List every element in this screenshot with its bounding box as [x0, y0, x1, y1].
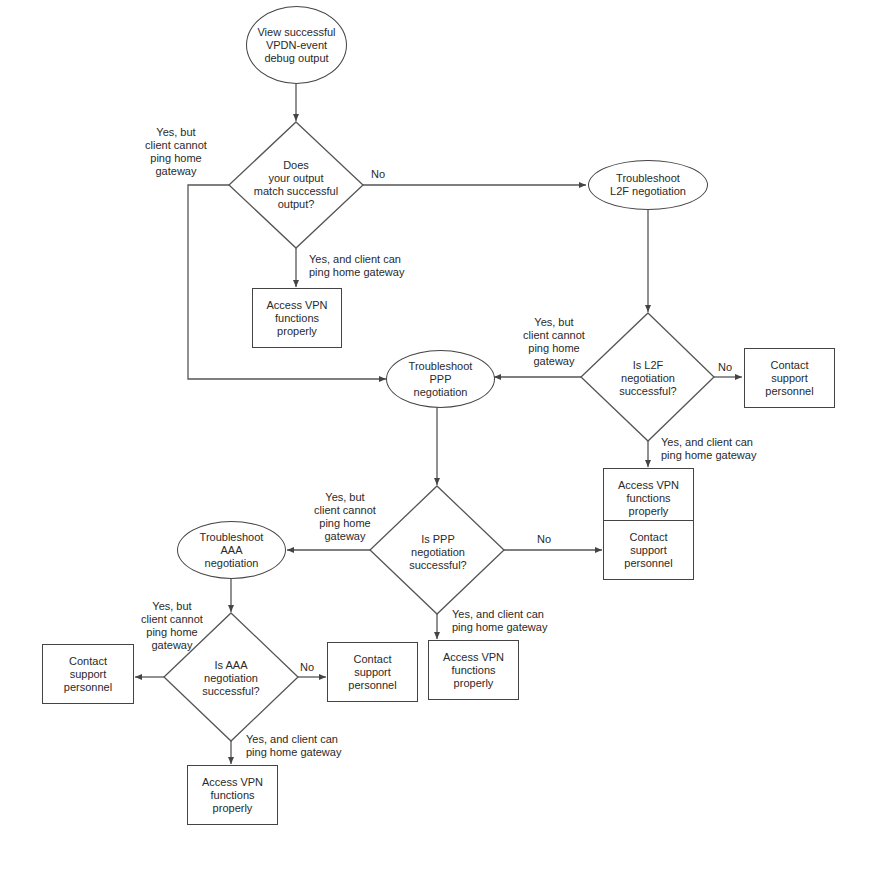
- contact-support-box-4: Contact support personnel: [327, 642, 418, 702]
- edge-label-d2-yes-cannot-ping: Yes, but client cannot ping home gateway: [512, 316, 596, 368]
- troubleshoot-aaa-node: Troubleshoot AAA negotiation: [177, 521, 286, 579]
- decision-aaa-text: Is AAA negotiation successful?: [183, 655, 279, 701]
- decision-output-match-text: Does your output match successful output…: [236, 155, 356, 215]
- start-node-view-debug-output: View successful VPDN-event debug output: [246, 6, 347, 84]
- troubleshoot-ppp-node: Troubleshoot PPP negotiation: [386, 350, 495, 408]
- access-vpn-box-2: Access VPN functions properly: [603, 468, 694, 528]
- decision-ppp-text: Is PPP negotiation successful?: [390, 529, 486, 575]
- edge-label-d3-yes-cannot-ping: Yes, but client cannot ping home gateway: [303, 491, 387, 543]
- edge-label-d2-no: No: [718, 361, 732, 374]
- edge-label-d3-yes-can-ping: Yes, and client can ping home gateway: [452, 608, 547, 634]
- edge-label-d2-yes-can-ping: Yes, and client can ping home gateway: [661, 436, 756, 462]
- contact-support-box-3: Contact support personnel: [42, 644, 134, 704]
- contact-support-box-2: Contact support personnel: [603, 520, 694, 580]
- edge-label-d1-yes-can-ping: Yes, and client can ping home gateway: [309, 253, 404, 279]
- edge-label-d4-no: No: [300, 661, 314, 674]
- decision-l2f-text: Is L2F negotiation successful?: [598, 355, 698, 401]
- edge-label-d1-yes-cannot-ping: Yes, but client cannot ping home gateway: [134, 126, 218, 178]
- edge-label-d1-no: No: [371, 168, 385, 181]
- access-vpn-box-4: Access VPN functions properly: [187, 765, 278, 825]
- edge-label-d4-yes-cannot-ping: Yes, but client cannot ping home gateway: [130, 600, 214, 652]
- edge-label-d4-yes-can-ping: Yes, and client can ping home gateway: [246, 733, 341, 759]
- access-vpn-box-1: Access VPN functions properly: [252, 288, 342, 348]
- flowchart-connectors: [0, 0, 874, 870]
- contact-support-box-1: Contact support personnel: [744, 348, 835, 408]
- edge-label-d3-no: No: [537, 533, 551, 546]
- troubleshoot-l2f-node: Troubleshoot L2F negotiation: [588, 160, 708, 210]
- access-vpn-box-3: Access VPN functions properly: [428, 640, 519, 700]
